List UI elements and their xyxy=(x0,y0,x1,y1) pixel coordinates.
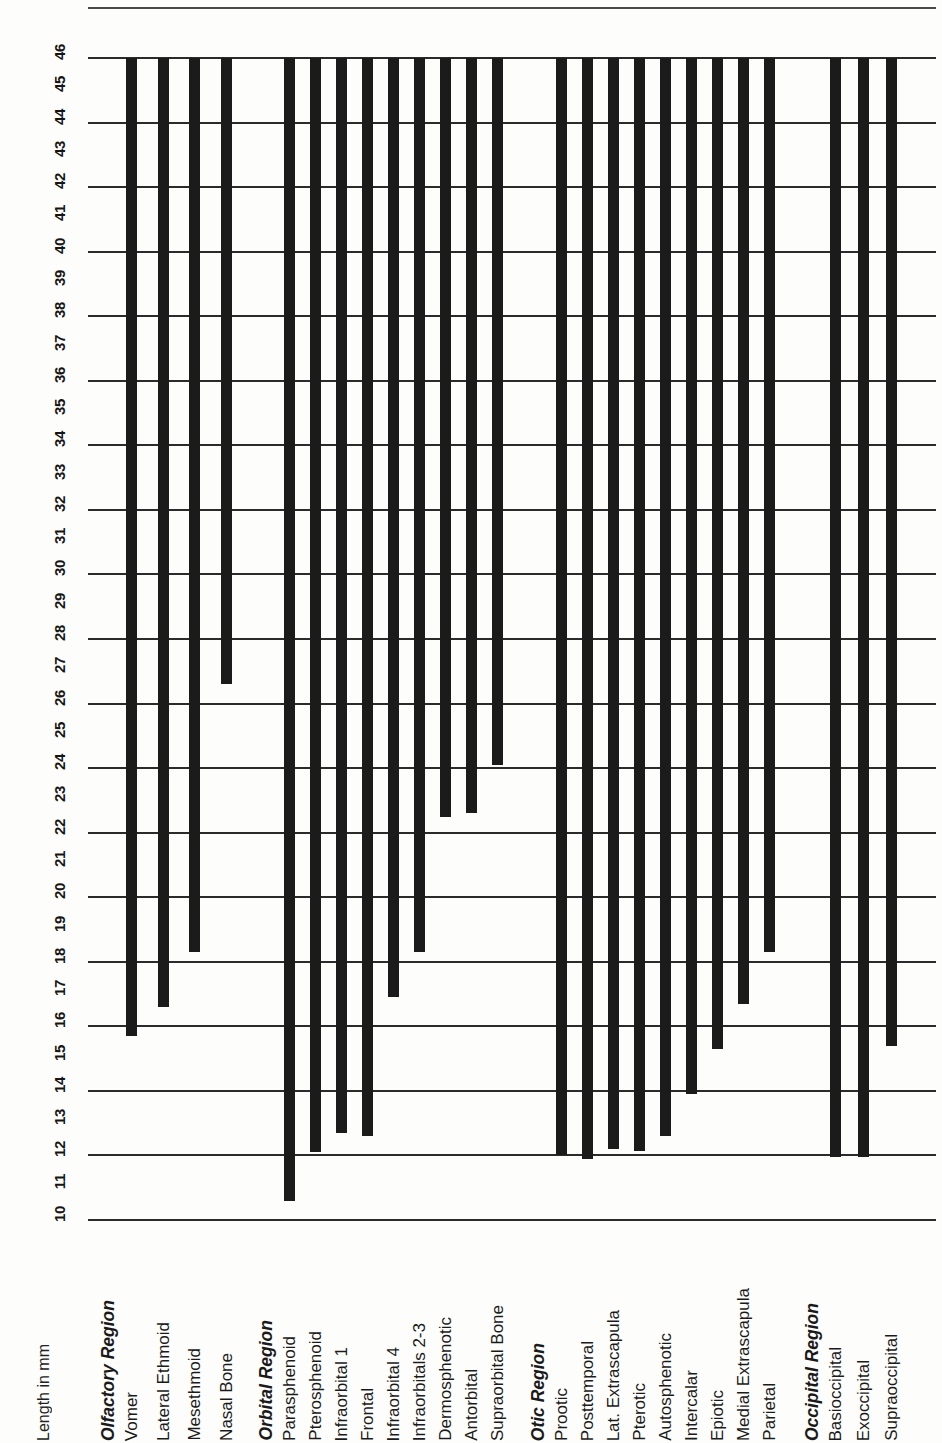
bar xyxy=(310,58,321,1152)
category-label: Vomer xyxy=(123,1392,140,1441)
y-axis-title: Length in mm xyxy=(36,1344,52,1441)
gridline xyxy=(88,703,936,705)
category-label-band: Length in mmOlfactory RegionOrbital Regi… xyxy=(0,1258,942,1443)
y-axis-tick-label: 24 xyxy=(52,754,67,770)
bar xyxy=(886,58,897,1046)
y-axis-tick-label: 45 xyxy=(52,76,67,92)
y-axis-tick-label: 11 xyxy=(52,1174,67,1189)
y-axis-tick-label: 31 xyxy=(52,528,67,544)
gridline xyxy=(88,57,936,59)
category-label: Infraorbital 4 xyxy=(385,1347,402,1442)
bar xyxy=(660,58,671,1136)
page-top-rule xyxy=(88,7,936,9)
y-axis-tick-label: 27 xyxy=(52,657,67,673)
y-axis-tick-label: 26 xyxy=(52,690,67,706)
bar xyxy=(284,58,295,1201)
y-axis-tick-label: 13 xyxy=(52,1109,67,1125)
y-axis-tick-label: 19 xyxy=(52,916,67,932)
y-axis-tick-label: 28 xyxy=(52,625,67,641)
chart-plot-area: 1011121314151617181920212223242526272829… xyxy=(0,40,942,1255)
bar xyxy=(189,58,200,952)
category-label: Exoccipital xyxy=(855,1360,872,1441)
y-axis-tick-label: 38 xyxy=(52,302,67,318)
y-axis-tick-label: 17 xyxy=(52,980,67,996)
gridline xyxy=(88,1219,936,1221)
category-label: Basioccipital xyxy=(827,1347,844,1442)
y-axis-tick-label: 34 xyxy=(52,431,67,447)
bar xyxy=(712,58,723,1049)
category-label: Parietal xyxy=(761,1383,778,1441)
y-axis-tick-label: 41 xyxy=(52,205,67,221)
category-label: Infraorbitals 2-3 xyxy=(411,1323,428,1441)
category-label: Dermosphenotic xyxy=(437,1317,454,1441)
bar xyxy=(830,58,841,1157)
region-heading: Olfactory Region xyxy=(100,1300,118,1441)
category-label: Pterosphenoid xyxy=(307,1331,324,1441)
gridline xyxy=(88,509,936,511)
category-label: Supraoccipital xyxy=(883,1334,900,1441)
y-axis-tick-label: 23 xyxy=(52,786,67,802)
y-axis-tick-label: 20 xyxy=(52,883,67,899)
gridline xyxy=(88,961,936,963)
region-heading: Orbital Region xyxy=(258,1320,276,1441)
y-axis-tick-label: 36 xyxy=(52,367,67,383)
gridline xyxy=(88,122,936,124)
y-axis-tick-label: 32 xyxy=(52,496,67,512)
category-label: Intercalar xyxy=(683,1370,700,1441)
region-heading: Otic Region xyxy=(530,1343,548,1441)
y-axis-tick-label: 46 xyxy=(52,44,67,60)
y-axis-tick-label: 35 xyxy=(52,399,67,415)
bar xyxy=(126,58,137,1036)
gridline xyxy=(88,315,936,317)
y-axis-tick-label: 22 xyxy=(52,819,67,835)
y-axis-tick-label: 21 xyxy=(52,851,67,867)
bar xyxy=(221,58,232,684)
category-label: Prootic xyxy=(553,1388,570,1441)
y-axis-tick-label: 43 xyxy=(52,141,67,157)
category-label: Antorbital xyxy=(463,1369,480,1441)
bar xyxy=(158,58,169,1007)
category-label: Posttemporal xyxy=(579,1341,596,1441)
gridline xyxy=(88,444,936,446)
gridline xyxy=(88,251,936,253)
category-label: Nasal Bone xyxy=(218,1353,235,1441)
bar xyxy=(414,58,425,952)
category-label: Infraorbital 1 xyxy=(333,1347,350,1442)
bar xyxy=(492,58,503,765)
category-label: Epiotic xyxy=(709,1390,726,1441)
category-label: Frontal xyxy=(359,1388,376,1441)
gridline xyxy=(88,832,936,834)
y-axis-tick-label: 42 xyxy=(52,173,67,189)
gridline xyxy=(88,767,936,769)
y-axis-tick-label: 39 xyxy=(52,270,67,286)
category-label: Medial Extrascapula xyxy=(735,1288,752,1441)
bar xyxy=(466,58,477,813)
bar xyxy=(556,58,567,1155)
y-axis-tick-label: 14 xyxy=(52,1077,67,1093)
gridline xyxy=(88,186,936,188)
bar xyxy=(764,58,775,952)
category-label: Parasphenoid xyxy=(281,1336,298,1441)
y-axis-tick-label: 44 xyxy=(52,109,67,125)
bar xyxy=(362,58,373,1136)
gridline xyxy=(88,380,936,382)
bar xyxy=(388,58,399,997)
y-axis-tick-label: 15 xyxy=(52,1045,67,1061)
category-label: Supraorbital Bone xyxy=(489,1305,506,1441)
bar xyxy=(634,58,645,1151)
category-label: Mesethmoid xyxy=(186,1348,203,1441)
y-axis-tick-label: 25 xyxy=(52,722,67,738)
y-axis-tick-label: 37 xyxy=(52,335,67,351)
bar xyxy=(336,58,347,1133)
bar xyxy=(858,58,869,1157)
gridline xyxy=(88,896,936,898)
category-label: Lateral Ethmoid xyxy=(155,1322,172,1441)
category-label: Pterotic xyxy=(631,1383,648,1441)
y-axis-tick-label: 16 xyxy=(52,1012,67,1028)
gridline xyxy=(88,1025,936,1027)
y-axis-tick-label: 29 xyxy=(52,593,67,609)
gridline xyxy=(88,1154,936,1156)
y-axis-tick-label: 30 xyxy=(52,560,67,576)
bar xyxy=(608,58,619,1149)
region-heading: Occipital Region xyxy=(804,1303,822,1441)
